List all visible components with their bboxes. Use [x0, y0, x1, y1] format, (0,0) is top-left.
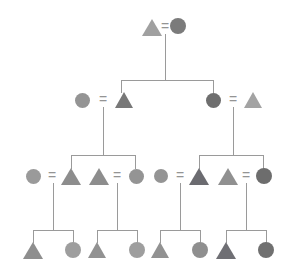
mating-symbol: =	[161, 19, 169, 33]
mating-symbol: =	[99, 92, 107, 106]
sibship-line-horizontal	[71, 155, 135, 156]
pedigree-circle-I-2	[170, 18, 186, 34]
mating-symbol: =	[229, 92, 237, 106]
pedigree-circle-III-4	[129, 169, 144, 184]
pedigree-triangle-I-1	[142, 19, 162, 36]
pedigree-triangle-III-3	[89, 168, 109, 185]
pedigree-circle-IV-8	[258, 242, 274, 258]
mating-symbol: =	[113, 168, 121, 182]
mating-symbol: =	[176, 168, 184, 182]
sibship-line-horizontal	[121, 80, 213, 81]
pedigree-circle-IV-6	[192, 242, 208, 258]
pedigree-circle-IV-2	[65, 242, 81, 258]
descent-line-vertical	[117, 183, 118, 230]
pedigree-chart: =======	[0, 0, 286, 273]
descent-line-vertical	[165, 34, 166, 80]
pedigree-triangle-II-4	[244, 92, 262, 108]
pedigree-triangle-II-2	[115, 92, 133, 108]
pedigree-triangle-III-7	[218, 168, 238, 185]
descent-line-vertical	[233, 107, 234, 155]
pedigree-triangle-III-6	[189, 168, 209, 185]
sibship-line-horizontal	[97, 230, 137, 231]
sibship-line-horizontal	[199, 155, 263, 156]
pedigree-circle-II-1	[75, 93, 90, 108]
descent-line-vertical	[180, 183, 181, 230]
descent-line-vertical	[135, 155, 136, 169]
pedigree-triangle-IV-1	[23, 242, 43, 259]
pedigree-circle-IV-4	[129, 242, 145, 258]
pedigree-triangle-IV-3	[88, 242, 106, 258]
descent-line-vertical	[103, 107, 104, 155]
pedigree-circle-III-8	[256, 168, 272, 184]
pedigree-circle-II-3	[206, 93, 221, 108]
descent-line-vertical	[213, 80, 214, 93]
descent-line-vertical	[263, 155, 264, 169]
mating-symbol: =	[48, 168, 56, 182]
pedigree-triangle-IV-7	[216, 242, 236, 259]
pedigree-circle-III-1	[26, 169, 41, 184]
pedigree-triangle-IV-5	[151, 242, 169, 258]
mating-symbol: =	[242, 168, 250, 182]
sibship-line-horizontal	[33, 230, 73, 231]
pedigree-circle-III-5	[154, 169, 168, 183]
descent-line-vertical	[246, 183, 247, 230]
descent-line-vertical	[53, 183, 54, 230]
sibship-line-horizontal	[226, 230, 266, 231]
pedigree-triangle-III-2	[61, 168, 81, 185]
sibship-line-horizontal	[160, 230, 200, 231]
